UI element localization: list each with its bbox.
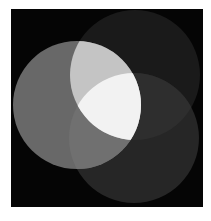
overlapping-circles-figure [0,0,211,221]
